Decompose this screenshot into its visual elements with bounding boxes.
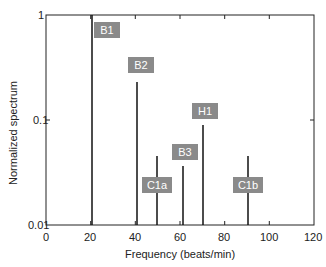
x-tick-40: 40 — [129, 231, 141, 243]
plot-svg: 0.01 0.1 1 0 20 40 60 80 100 120 Frequen… — [0, 0, 326, 267]
y-tick-01: 0.1 — [33, 114, 48, 126]
label-h1: H1 — [192, 103, 218, 119]
label-c1b: C1b — [233, 177, 263, 193]
x-tick-80: 80 — [218, 231, 230, 243]
plot-frame — [46, 15, 314, 225]
label-b3: B3 — [172, 144, 198, 160]
x-tick-60: 60 — [174, 231, 186, 243]
chart: 0.01 0.1 1 0 20 40 60 80 100 120 Frequen… — [0, 0, 326, 267]
y-tick-1: 1 — [38, 9, 44, 21]
label-b2: B2 — [128, 57, 154, 73]
x-tick-0: 0 — [43, 231, 49, 243]
x-axis-title: Frequency (beats/min) — [125, 248, 235, 260]
x-tick-20: 20 — [84, 231, 96, 243]
x-tick-100: 100 — [260, 231, 278, 243]
label-c1a: C1a — [142, 177, 172, 193]
y-tick-001: 0.01 — [28, 219, 49, 231]
x-tick-120: 120 — [304, 231, 322, 243]
peaks — [92, 15, 248, 225]
label-b1: B1 — [94, 22, 120, 38]
x-ticks — [46, 15, 314, 225]
y-axis-title: Normalized spectrum — [7, 81, 19, 185]
